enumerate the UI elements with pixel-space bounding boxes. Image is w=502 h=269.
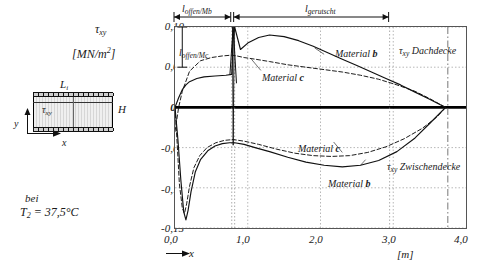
figure-root: τxy [MN/m2] Li H τxy y x bei (0, 0, 502, 269)
xtick-label: 2,0 (309, 233, 323, 245)
annotation-dachdecke: τxy Dachdecke (399, 45, 456, 58)
annotation-material-b-top: Material b (335, 48, 378, 59)
unit-label: [MN/m2] (72, 46, 115, 62)
label-height-H: H (118, 103, 126, 115)
xtick-label: 3,0 (382, 233, 396, 245)
dim-label-gerutscht: lgerutscht (305, 3, 336, 16)
x-axis-arrowhead-plot (181, 249, 191, 258)
dim-label-offen-mc: loffen/Mc (179, 47, 208, 60)
label-tau-xy-in-box: τxy (42, 104, 52, 117)
annotation-zwischendecke: τxy Zwischendecke (387, 161, 460, 174)
label-length-L: Li (60, 78, 68, 92)
xtick-label: 4,0 (454, 233, 468, 245)
annotation-material-c-top: Material c (262, 72, 304, 83)
diagram-mid-divider (73, 97, 74, 127)
left-schematic-panel: τxy [MN/m2] Li H τxy y x bei (0, 0, 150, 269)
series-curve (175, 55, 446, 131)
dim-label-offen-mb: loffen/Mb (182, 3, 212, 16)
x-axis-arrow-line (28, 133, 54, 134)
tau-xy-title: τxy (95, 22, 106, 37)
label-axis-x-diagram: x (62, 137, 66, 148)
diagram-top-hatch (33, 92, 113, 97)
plot-area: 0,10 0,05 0,0 -0,05 -0,10 -0,15 0,0 1,0 … (150, 0, 502, 269)
tau-subscript: xy (99, 28, 106, 37)
y-axis-arrowhead (23, 108, 33, 116)
series-curve (175, 27, 446, 107)
xtick-label: 1,0 (236, 233, 250, 245)
diagram-bottom-hatch (33, 127, 113, 132)
annotation-material-c-bottom: Material c (298, 143, 340, 154)
condition-bei: bei (25, 192, 38, 204)
label-axis-y: y (14, 118, 18, 129)
x-axis-arrowhead (52, 129, 62, 138)
annotation-material-b-bottom: Material b (328, 178, 371, 189)
condition-temperature: T2 = 37,5°C (20, 205, 79, 220)
x-unit-label: [m] (397, 248, 414, 260)
xtick-label: 0,0 (164, 233, 178, 245)
